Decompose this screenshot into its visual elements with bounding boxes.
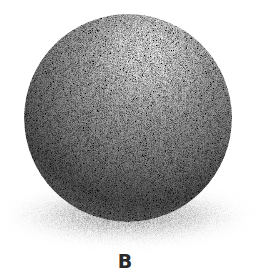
sphere	[24, 14, 232, 222]
sphere-drawing	[0, 0, 258, 278]
illustration	[0, 0, 258, 278]
figure-label: B	[110, 250, 140, 272]
